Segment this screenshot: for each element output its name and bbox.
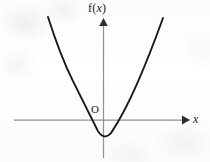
y-axis-arrow-icon xyxy=(99,18,108,26)
function-label: f(x) xyxy=(88,2,106,14)
x-axis xyxy=(14,116,190,125)
x-axis-label: x xyxy=(193,113,198,125)
function-label-suffix: ) xyxy=(102,1,106,15)
figure-canvas: f(x) O x xyxy=(0,0,210,162)
parabola-curve xyxy=(48,17,163,136)
coordinate-plot xyxy=(0,0,210,162)
origin-label: O xyxy=(91,104,99,115)
x-axis-arrow-icon xyxy=(182,116,190,125)
